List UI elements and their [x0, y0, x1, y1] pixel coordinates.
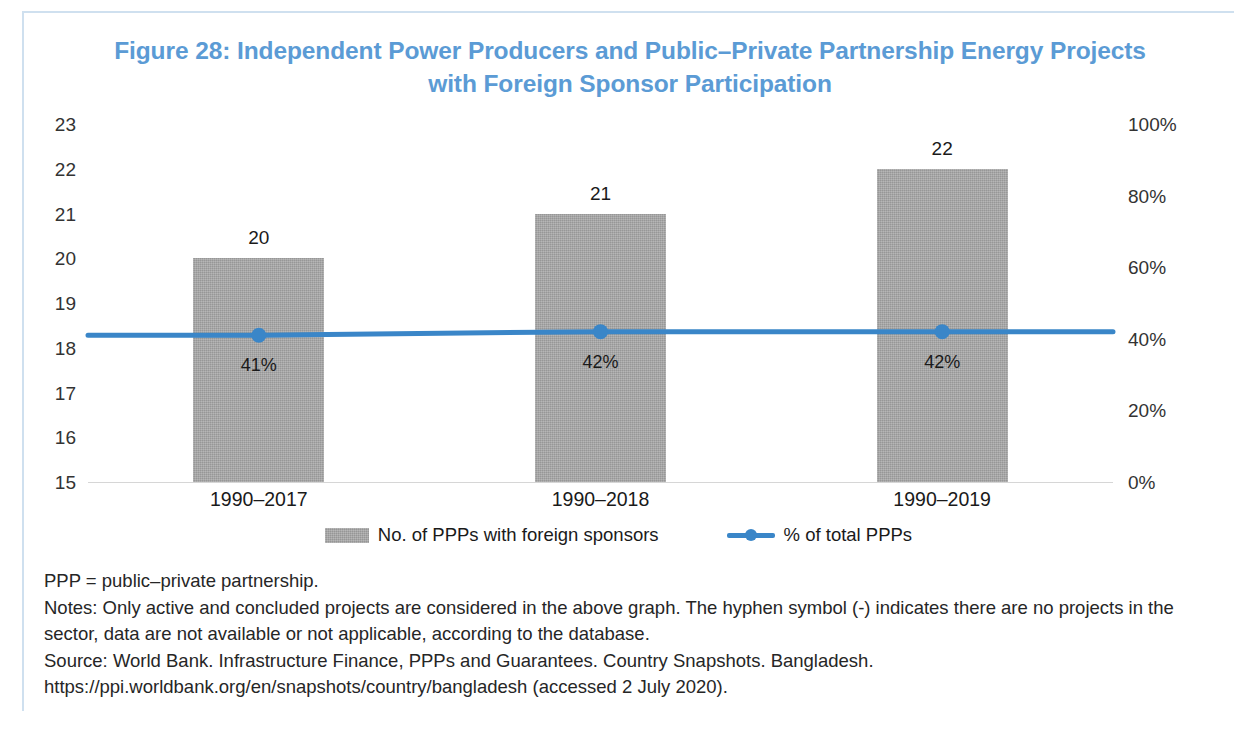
line-point-label: 42%: [862, 353, 1022, 371]
bar-value-label: 20: [179, 228, 339, 247]
right-axis-tick-20: 20%: [1128, 401, 1208, 420]
right-axis-tick-0: 0%: [1128, 473, 1208, 492]
x-axis-label: 1990–2018: [471, 488, 731, 511]
bar-value-label: 21: [521, 184, 681, 203]
x-axis-label: 1990–2017: [129, 488, 389, 511]
plot-area: [88, 124, 1113, 482]
left-axis-tick-19: 19: [24, 294, 76, 313]
figure-frame-top-rule: [22, 11, 1234, 13]
left-axis-tick-18: 18: [24, 339, 76, 358]
chart-legend: No. of PPPs with foreign sponsors % of t…: [0, 524, 1237, 546]
line-point-label: 41%: [179, 356, 339, 374]
axis-baseline: [88, 482, 1113, 483]
bar-swatch-icon: [325, 528, 369, 543]
left-axis-tick-23: 23: [24, 115, 76, 134]
left-axis-tick-20: 20: [24, 249, 76, 268]
figure-title-line-1: Figure 28: Independent Power Producers a…: [114, 37, 1146, 64]
left-axis-tick-22: 22: [24, 160, 76, 179]
right-axis-tick-80: 80%: [1128, 187, 1208, 206]
notes-note: Notes: Only active and concluded project…: [44, 595, 1212, 648]
left-axis-tick-16: 16: [24, 428, 76, 447]
left-axis-tick-21: 21: [24, 205, 76, 224]
figure-title: Figure 28: Independent Power Producers a…: [55, 34, 1205, 100]
line-point-label: 42%: [521, 353, 681, 371]
figure-28-container: Figure 28: Independent Power Producers a…: [0, 0, 1237, 730]
figure-notes: PPP = public–private partnership. Notes:…: [44, 568, 1212, 701]
notes-source: Source: World Bank. Infrastructure Finan…: [44, 648, 1212, 701]
bar: [535, 214, 666, 483]
legend-label-bars: No. of PPPs with foreign sponsors: [378, 524, 659, 546]
right-axis-tick-100: 100%: [1128, 115, 1208, 134]
right-axis-tick-40: 40%: [1128, 330, 1208, 349]
chart-area: 232221201918171615 100%80%60%40%20%0% 20…: [0, 110, 1237, 520]
bar-value-label: 22: [862, 139, 1022, 158]
figure-title-line-2: with Foreign Sponsor Participation: [428, 70, 832, 97]
x-axis-label: 1990–2019: [812, 488, 1072, 511]
legend-label-line: % of total PPPs: [784, 524, 913, 546]
line-swatch-icon: [727, 528, 775, 542]
notes-abbreviation: PPP = public–private partnership.: [44, 568, 1212, 595]
legend-item-bars: No. of PPPs with foreign sponsors: [325, 524, 659, 546]
legend-item-line: % of total PPPs: [727, 524, 913, 546]
left-axis-tick-17: 17: [24, 384, 76, 403]
right-axis-tick-60: 60%: [1128, 258, 1208, 277]
bar: [877, 169, 1008, 482]
left-axis-tick-15: 15: [24, 473, 76, 492]
